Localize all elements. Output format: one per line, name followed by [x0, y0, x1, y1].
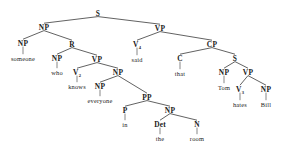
tree-edge-np-subj-to-r-rel	[44, 31, 72, 41]
tree-node-np-obj: NP	[113, 68, 123, 77]
node-label: N	[194, 120, 200, 129]
tree-edge-s-root-to-np-subj	[44, 17, 98, 24]
tree-node-np-room: NP	[165, 106, 175, 115]
tree-edge-np-room-to-n-room	[170, 114, 197, 121]
tree-node-s-root: S	[96, 9, 100, 18]
tree-edge-cp-to-s-embedded	[212, 48, 235, 55]
node-label: R	[69, 40, 75, 49]
node-label: NP	[39, 23, 49, 32]
node-label: NP	[113, 68, 123, 77]
tree-edge-cp-to-c-that	[180, 48, 212, 55]
node-label: in	[122, 121, 127, 128]
tree-node-np-everyone: NP	[95, 82, 105, 91]
tree-leaf-w-room: room	[190, 135, 204, 142]
node-label: V	[236, 85, 242, 94]
node-label: the	[156, 135, 164, 142]
node-label: Det	[154, 120, 166, 129]
tree-edge-s-root-to-vp-matrix	[98, 17, 160, 25]
tree-leaf-w-said: said	[131, 56, 142, 63]
tree-edge-np-obj-to-pp	[118, 76, 147, 94]
node-label: said	[131, 56, 142, 63]
node-label: S	[233, 54, 237, 63]
node-label: V	[133, 40, 139, 49]
tree-leaf-w-knows: knows	[68, 83, 86, 90]
node-label-subscript: 3	[242, 89, 245, 94]
tree-leaf-w-someone: someone	[11, 55, 35, 62]
node-label: VP	[155, 24, 165, 33]
node-label: P	[123, 106, 128, 115]
node-label: V	[73, 68, 79, 77]
node-label-subscript: 2	[79, 72, 82, 77]
tree-node-n-room: N	[194, 120, 200, 129]
node-label: NP	[165, 106, 175, 115]
node-label: NP	[52, 54, 62, 63]
node-label: PP	[142, 93, 151, 102]
tree-node-r-rel: R	[69, 40, 75, 49]
node-label: that	[175, 70, 185, 77]
tree-node-c-that: C	[177, 54, 183, 63]
node-label: NP	[95, 82, 105, 91]
tree-node-pp: PP	[142, 93, 151, 102]
tree-leaf-w-who: who	[51, 69, 63, 76]
node-label: C	[177, 54, 183, 63]
tree-leaf-w-the: the	[156, 135, 164, 142]
node-label: knows	[68, 83, 86, 90]
tree-node-vp-embedded: VP	[243, 68, 253, 77]
tree-edge-vp-matrix-to-cp	[160, 32, 212, 41]
tree-node-det-the: Det	[154, 120, 166, 129]
tree-leaf-w-hates: hates	[233, 101, 247, 108]
tree-node-v-knows: V2	[73, 68, 81, 77]
tree-leaf-w-bill: Bill	[261, 101, 271, 108]
tree-node-cp: CP	[207, 40, 217, 49]
tree-node-np-tom: NP	[219, 68, 229, 77]
tree-node-v-hates: V3	[236, 85, 244, 94]
node-label: Bill	[261, 101, 271, 108]
node-label: VP	[243, 68, 253, 77]
tree-leaf-w-in: in	[122, 121, 127, 128]
tree-leaf-w-that: that	[175, 70, 185, 77]
tree-node-vp-matrix: VP	[155, 24, 165, 33]
node-label: NP	[18, 39, 28, 48]
tree-node-v-said: V4	[133, 40, 141, 49]
syntax-tree-diagram: SNPVPNPRV4CPsomeoneNPVPsaidCSwhoV2NPthat…	[0, 0, 284, 146]
node-label: S	[96, 9, 100, 18]
node-label: room	[190, 135, 204, 142]
tree-node-p-in: P	[123, 106, 128, 115]
tree-leaf-w-everyone: everyone	[87, 97, 112, 104]
tree-node-np-someone: NP	[18, 39, 28, 48]
tree-node-np-subj: NP	[39, 23, 49, 32]
tree-node-np-bill: NP	[261, 85, 271, 94]
node-label: NP	[219, 68, 229, 77]
node-label: everyone	[87, 97, 112, 104]
node-label: hates	[233, 101, 247, 108]
tree-node-vp-rel: VP	[92, 55, 102, 64]
node-label: CP	[207, 40, 217, 49]
tree-node-np-who: NP	[52, 54, 62, 63]
tree-node-s-embedded: S	[233, 54, 237, 63]
node-label: who	[51, 69, 63, 76]
node-label-subscript: 4	[139, 44, 142, 49]
tree-leaf-w-tom: Tom	[218, 84, 230, 91]
node-label: NP	[261, 85, 271, 94]
node-label: VP	[92, 55, 102, 64]
node-label: someone	[11, 55, 35, 62]
node-label: Tom	[218, 84, 230, 91]
